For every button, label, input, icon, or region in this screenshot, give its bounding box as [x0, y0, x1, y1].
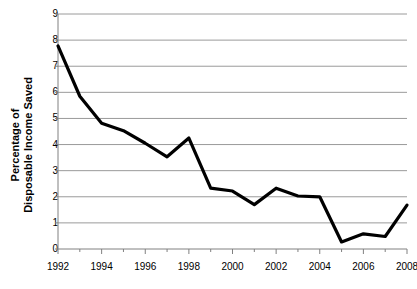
plot-area [0, 0, 417, 289]
chart-container: Percentage of Disposable Income Saved 01… [0, 0, 417, 289]
x-axis-ticks [58, 249, 407, 254]
data-series [58, 46, 407, 242]
series-line [58, 46, 407, 242]
axis-lines [58, 14, 407, 249]
